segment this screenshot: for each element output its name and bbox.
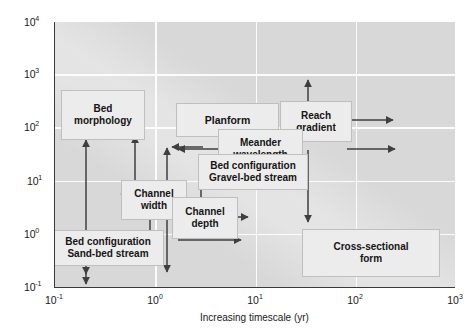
node-label-line1: Channel — [185, 206, 224, 217]
node-label-line2: form — [360, 253, 382, 264]
node-channel-depth[interactable]: Channel depth — [172, 197, 238, 239]
plot-area: Bed morphology Planform Reach gradient M… — [54, 22, 455, 288]
node-label-line2: width — [141, 200, 167, 211]
xtick-label: 103 — [435, 293, 466, 306]
node-label-line1: Bed configuration — [210, 160, 296, 171]
node-bed-configuration-gravel[interactable]: Bed configuration Gravel-bed stream — [198, 154, 308, 190]
node-label-line1: Meander — [240, 137, 281, 148]
node-label-line1: Bed configuration — [65, 236, 151, 247]
node-label-line2: morphology — [74, 115, 132, 126]
node-label-line1: Reach — [301, 110, 331, 121]
xtick-label: 100 — [135, 293, 175, 306]
node-label-line2: Gravel-bed stream — [209, 172, 297, 183]
node-label-line1: Channel — [134, 188, 173, 199]
node-label-line2: depth — [191, 218, 218, 229]
xtick-label: 102 — [335, 293, 375, 306]
node-label-line1: Bed — [94, 103, 113, 114]
figure-root: Bed morphology Planform Reach gradient M… — [0, 0, 466, 332]
node-label-line1: Cross-sectional — [333, 241, 408, 252]
xtick-label: 10-1 — [34, 293, 74, 306]
node-bed-configuration-sand[interactable]: Bed configuration Sand-bed stream — [54, 230, 164, 266]
x-axis-label: Increasing timescale (yr) — [54, 312, 455, 323]
node-bed-morphology[interactable]: Bed morphology — [61, 90, 145, 140]
xtick-label: 101 — [235, 293, 275, 306]
y-axis-label: Increasing length scale (m) — [0, 0, 12, 28]
node-label-line1: Planform — [205, 114, 251, 126]
node-cross-sectional-form[interactable]: Cross-sectional form — [302, 229, 440, 277]
node-label-line2: Sand-bed stream — [67, 248, 148, 259]
